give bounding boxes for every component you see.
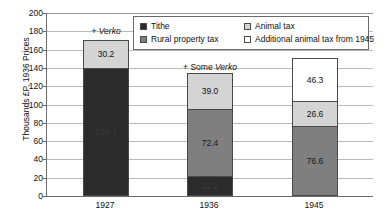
bar-segment-additional-animal-tax-1945[interactable]: 46.3 (292, 58, 338, 101)
chart-legend: Tithe Animal tax Rural property tax Addi… (133, 16, 369, 50)
bar-segment-animal-tax-1927[interactable]: 30.2 (83, 40, 129, 68)
legend-swatch-icon (244, 36, 251, 43)
legend-label: Rural property tax (151, 34, 219, 44)
annotation-emphasis: Verko (99, 26, 121, 36)
legend-item-tithe[interactable]: Tithe (140, 21, 244, 31)
bar-column-1936[interactable]: 39.0 72.4 22.2 (187, 73, 233, 196)
legend-item-animal-tax[interactable]: Animal tax (244, 21, 374, 31)
y-tick-label: 120 (0, 81, 43, 91)
annotation-emphasis: Verko (215, 62, 237, 72)
bar-value-label: 30.2 (98, 50, 115, 59)
annotation-prefix: + (91, 26, 98, 36)
x-tick-label-1945: 1945 (264, 200, 364, 210)
y-tick-label: 40 (0, 154, 43, 164)
bar-segment-animal-tax-1945[interactable]: 26.6 (292, 101, 338, 126)
bar-segment-rural-property-tax-1945[interactable]: 76.6 (292, 126, 338, 197)
bar-segment-tithe-1936[interactable]: 22.2 (187, 176, 233, 196)
bar-column-1927[interactable]: 30.2 139.7 (83, 40, 129, 196)
x-axis-labels: 1927 1936 1945 (46, 200, 373, 214)
bar-column-1945[interactable]: 46.3 26.6 76.6 (292, 58, 338, 196)
bar-value-label: 72.4 (202, 139, 219, 148)
y-tick-label: 60 (0, 136, 43, 146)
legend-swatch-icon (140, 23, 147, 30)
legend-swatch-icon (244, 23, 251, 30)
stacked-bar-chart: Thousands £P, 1936 Prices 200 180 160 14… (0, 0, 386, 221)
bar-value-label: 22.2 (202, 182, 219, 191)
annotation-prefix: + Some (183, 62, 215, 72)
tickmark-0 (43, 196, 47, 197)
y-tick-label: 100 (0, 100, 43, 110)
legend-swatch-icon (140, 36, 147, 43)
y-tick-label: 200 (0, 8, 43, 18)
annotation-1936: + Some Verko (140, 62, 280, 72)
legend-label: Animal tax (255, 21, 295, 31)
y-tick-label: 0 (0, 191, 43, 201)
bar-value-label: 46.3 (307, 76, 324, 85)
bar-segment-tithe-1927[interactable]: 139.7 (83, 68, 129, 197)
bar-value-label: 76.6 (307, 157, 324, 166)
legend-item-additional-animal-tax[interactable]: Additional animal tax from 1945 (244, 34, 374, 44)
bar-segment-animal-tax-1936[interactable]: 39.0 (187, 73, 233, 109)
y-tick-label: 80 (0, 118, 43, 128)
legend-label: Tithe (151, 21, 170, 31)
bar-value-label: 39.0 (202, 87, 219, 96)
bar-value-label: 26.6 (307, 110, 324, 119)
x-tick-label-1927: 1927 (55, 200, 155, 210)
x-tick-label-1936: 1936 (159, 200, 259, 210)
y-tick-label: 20 (0, 173, 43, 183)
y-tick-label: 140 (0, 63, 43, 73)
legend-label: Additional animal tax from 1945 (255, 34, 374, 44)
bar-value-label: 139.7 (95, 128, 116, 137)
y-tick-label: 160 (0, 45, 43, 55)
legend-item-rural-property-tax[interactable]: Rural property tax (140, 34, 244, 44)
bar-segment-rural-property-tax-1936[interactable]: 72.4 (187, 109, 233, 176)
